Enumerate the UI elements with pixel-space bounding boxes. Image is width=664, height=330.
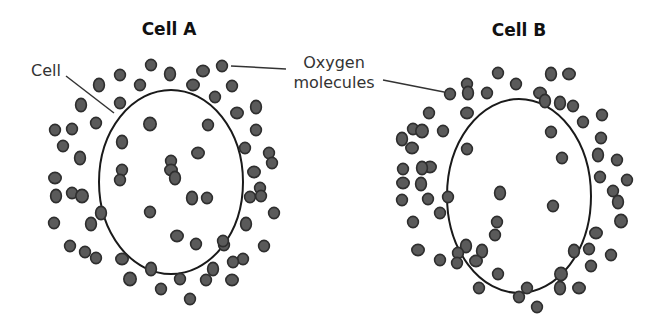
oxygen-molecule <box>226 274 238 285</box>
oxygen-molecule <box>192 147 204 158</box>
oxygen-molecule <box>94 78 105 91</box>
oxygen-leader-line-b <box>383 80 444 92</box>
oxygen-molecule <box>248 166 260 177</box>
oxygen-molecule <box>424 107 435 118</box>
oxygen-molecule <box>144 117 156 130</box>
oxygen-molecule <box>49 172 61 183</box>
oxygen-molecule <box>238 253 249 264</box>
oxygen-molecule <box>555 267 567 280</box>
oxygen-molecule <box>470 255 482 266</box>
oxygen-molecule <box>117 135 128 148</box>
oxygen-molecule <box>555 96 566 109</box>
oxygen-molecule <box>461 107 473 118</box>
oxygen-molecule <box>548 200 559 211</box>
oxygen-molecule <box>397 194 408 205</box>
oxygen-molecule <box>597 109 608 120</box>
oxygen-molecule <box>612 154 623 165</box>
cell-b-title: Cell B <box>492 20 547 40</box>
oxygen-molecule <box>91 252 102 263</box>
oxygen-molecule <box>115 97 126 108</box>
oxygen-molecule <box>269 207 280 218</box>
oxygen-molecule <box>482 87 493 98</box>
oxygen-molecule <box>435 254 446 265</box>
oxygen-molecule <box>443 191 454 202</box>
oxygen-molecule <box>573 282 585 293</box>
oxygen-molecule <box>593 148 604 161</box>
oxygen-molecule <box>595 171 606 182</box>
oxygen-molecule <box>228 256 239 267</box>
oxygen-molecule <box>218 235 229 246</box>
oxygen-molecule <box>412 244 424 255</box>
oxygen-molecule <box>590 227 602 238</box>
oxygen-molecule <box>423 193 434 204</box>
oxygen-molecule <box>231 107 243 118</box>
oxygen-molecule <box>156 283 167 294</box>
oxygen-molecule <box>578 116 589 127</box>
oxygen-molecule <box>210 91 221 102</box>
oxygen-molecule <box>438 125 449 136</box>
oxygen-molecule <box>606 249 617 260</box>
oxygen-molecule <box>65 240 76 251</box>
oxygen-molecule <box>251 100 262 113</box>
oxygen-molecule <box>474 282 485 293</box>
oxygen-molecule <box>557 152 568 163</box>
oxygen-molecule <box>267 157 278 168</box>
oxygen-molecule <box>408 216 419 227</box>
oxygen-molecule <box>135 79 146 90</box>
oxygen-molecule <box>452 257 463 268</box>
oxygen-molecule <box>146 59 157 70</box>
oxygen-molecule <box>185 293 196 304</box>
oxygen-molecule <box>586 260 597 271</box>
oxygen-molecule <box>613 195 624 208</box>
oxygen-molecule <box>259 240 270 251</box>
oxygen-molecule <box>146 262 157 275</box>
oxygen-molecule <box>417 161 428 174</box>
oxygen-molecule <box>116 253 128 264</box>
oxygen-molecule <box>170 171 181 184</box>
oxygen-molecule <box>522 282 533 293</box>
oxygen-molecule <box>546 67 557 80</box>
oxygen-molecule <box>397 177 409 188</box>
cell-label: Cell <box>31 61 61 80</box>
oxygen-molecule <box>568 100 579 111</box>
oxygen-molecule <box>256 190 267 201</box>
oxygen-molecule <box>495 186 506 199</box>
oxygen-molecule <box>76 98 87 111</box>
oxygen-molecule <box>490 229 501 240</box>
oxygen-molecule <box>165 67 176 80</box>
oxygen-molecule <box>208 262 219 275</box>
oxygen-molecule <box>115 69 126 80</box>
oxygen-molecule <box>493 268 504 279</box>
oxygen-molecule <box>86 217 97 230</box>
oxygen-leader-line-a <box>231 66 286 69</box>
oxygen-molecule <box>546 126 557 137</box>
oxygen-molecule <box>67 123 78 134</box>
oxygen-molecule <box>96 206 107 219</box>
oxygen-molecule <box>76 189 88 202</box>
oxygen-molecule <box>145 206 156 217</box>
cell-leader-line <box>66 76 114 113</box>
oxygen-molecule <box>217 60 228 71</box>
oxygen-molecule <box>202 192 213 203</box>
oxygen-molecule <box>398 163 409 174</box>
oxygen-molecule <box>492 216 503 227</box>
oxygen-molecule <box>416 177 427 190</box>
oxygen-molecule <box>493 67 504 78</box>
oxygen-molecule <box>75 151 86 164</box>
oxygen-molecule <box>416 124 428 137</box>
cell-a-title: Cell A <box>142 19 198 39</box>
oxygen-molecule <box>115 174 126 185</box>
oxygen-molecule <box>555 281 566 294</box>
oxygen-molecule <box>197 65 209 76</box>
oxygen-molecule <box>191 238 202 249</box>
diagram-canvas: Cell A Cell B Cell Oxygen molecules <box>0 0 664 330</box>
oxygen-molecule <box>245 191 256 202</box>
oxygen-molecule <box>514 291 525 302</box>
cell-a-oxygen-molecules <box>49 59 280 304</box>
oxygen-molecule <box>241 217 252 230</box>
oxygen-molecule <box>80 246 91 257</box>
oxygen-label-line1: Oxygen <box>303 53 365 72</box>
oxygen-molecule <box>622 174 633 185</box>
oxygen-molecule <box>435 207 446 218</box>
oxygen-molecule <box>50 124 61 135</box>
